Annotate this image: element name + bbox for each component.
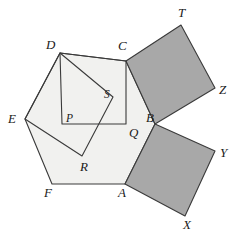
vertex-label-C: C	[118, 39, 127, 52]
vertex-label-S: S	[104, 89, 110, 101]
vertex-label-D: D	[46, 38, 55, 51]
vertex-label-P: P	[66, 113, 73, 125]
vertex-label-R: R	[80, 160, 88, 173]
figure-canvas	[0, 0, 240, 239]
vertex-label-T: T	[178, 6, 185, 19]
vertex-label-E: E	[8, 112, 16, 125]
vertex-label-X: X	[183, 218, 191, 231]
vertex-label-B: B	[146, 111, 154, 124]
vertex-label-F: F	[44, 186, 52, 199]
geometry-figure: D C T Z E S P Q B Y R F A X	[0, 0, 240, 239]
vertex-label-A: A	[118, 186, 126, 199]
vertex-label-Y: Y	[220, 146, 227, 159]
vertex-label-Z: Z	[219, 83, 226, 96]
vertex-label-Q: Q	[129, 126, 138, 139]
